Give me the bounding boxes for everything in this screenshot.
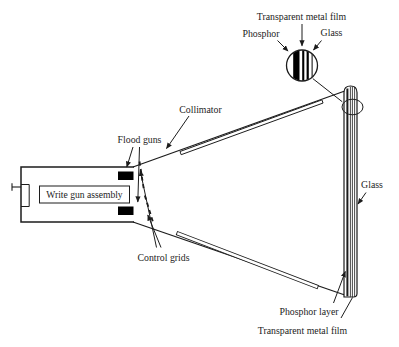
arrow-collimator — [167, 116, 190, 149]
label-collimator: Collimator — [179, 104, 222, 115]
layer-detail-circle — [287, 50, 318, 81]
funnel-top-wall — [133, 91, 345, 167]
arrow-phosphor — [278, 41, 289, 52]
label-transparent-metal-film-top: Transparent metal film — [257, 11, 347, 22]
flood-gun-bottom — [118, 207, 134, 216]
line-transparent-metal-film-bottom — [341, 298, 353, 319]
dvst-diagram: Write gun assembly Transparent metal fil… — [0, 0, 399, 347]
gun-mount-bracket — [21, 185, 29, 207]
collimator-plate-bottom — [176, 232, 318, 289]
control-grid-dashed-lines — [140, 162, 153, 222]
arrow-flood-gun-bottom — [138, 147, 140, 202]
label-phosphor-layer: Phosphor layer — [279, 306, 339, 317]
label-phosphor: Phosphor — [242, 28, 280, 39]
detail-callout-line — [313, 79, 343, 102]
arrow-glass-right — [358, 193, 366, 205]
flood-gun-top — [118, 172, 134, 181]
arrow-control-grid-upper — [140, 171, 156, 248]
label-glass-right: Glass — [361, 179, 383, 190]
label-glass-top: Glass — [321, 27, 343, 38]
label-flood-guns: Flood guns — [118, 134, 162, 145]
layer-stripes — [293, 49, 312, 83]
arrow-flood-gun-top — [127, 147, 133, 167]
electrical-lead — [12, 183, 21, 191]
write-gun-assembly-label: Write gun assembly — [46, 189, 123, 200]
label-transparent-metal-film-bottom: Transparent metal film — [258, 325, 348, 336]
arrow-glass-top — [314, 41, 322, 51]
label-control-grids: Control grids — [138, 252, 190, 263]
